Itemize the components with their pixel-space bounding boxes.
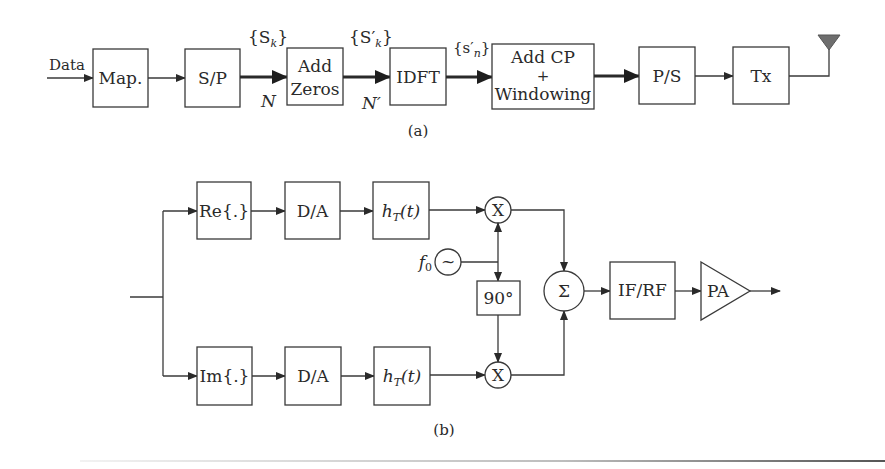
map-label: Map.	[99, 68, 143, 88]
svg-text:hT(t): hT(t)	[383, 366, 421, 389]
add-cp-windowing-block: Add CP + Windowing	[492, 44, 594, 109]
svg-text:IDFT: IDFT	[396, 67, 440, 87]
da-upper-block: D/A	[285, 182, 340, 239]
mixer-upper-to-sum-arrow	[511, 210, 564, 271]
svg-text:Σ: Σ	[558, 281, 570, 301]
svg-text:Zeros: Zeros	[291, 79, 340, 99]
mixer-lower-to-sum-arrow	[511, 311, 564, 375]
data-input-label: Data	[49, 56, 85, 74]
mixer-lower: X	[485, 362, 511, 388]
tx-to-antenna-line	[789, 48, 829, 76]
phase-shift-block: 90°	[477, 281, 520, 315]
ps-block: P/S	[639, 47, 695, 104]
n-label: N	[260, 91, 277, 111]
re-block: Re{.}	[197, 182, 251, 239]
filter-upper-block: hT(t)	[373, 182, 429, 239]
svg-text:X: X	[492, 200, 505, 220]
idft-block: IDFT	[390, 48, 446, 105]
figure-a: Data Map. S/P {Sk} N Add Zeros {S′k} N′ …	[47, 27, 840, 140]
filter-lower-block: hT(t)	[374, 347, 430, 405]
svg-text:D/A: D/A	[297, 201, 329, 221]
svg-text:X: X	[492, 365, 505, 385]
summer: Σ	[544, 271, 584, 311]
n-prime-label: N′	[361, 93, 381, 113]
figure-b: Re{.} D/A hT(t) X Im{.} D/A hT(	[130, 182, 780, 439]
svg-text:Tx: Tx	[751, 66, 772, 86]
map-block: Map.	[93, 49, 148, 107]
sp-block: S/P	[185, 49, 240, 107]
svg-text:Add CP: Add CP	[510, 47, 575, 67]
svg-text:IF/RF: IF/RF	[618, 280, 667, 300]
svg-text:Add: Add	[297, 56, 332, 76]
svg-text:Re{.}: Re{.}	[199, 201, 249, 221]
sk-prime-signal-label: {S′k}	[349, 27, 393, 50]
im-block: Im{.}	[197, 347, 252, 405]
svg-text:P/S: P/S	[653, 66, 682, 86]
mixer-upper: X	[485, 197, 511, 223]
svg-text:hT(t): hT(t)	[382, 201, 420, 224]
svg-text:Im{.}: Im{.}	[200, 366, 250, 386]
caption-b: (b)	[433, 421, 454, 439]
caption-a: (a)	[408, 122, 429, 140]
add-zeros-block: Add Zeros	[287, 48, 343, 105]
svg-text:Windowing: Windowing	[495, 84, 592, 104]
svg-text:D/A: D/A	[297, 366, 329, 386]
antenna-icon	[818, 35, 840, 50]
oscillator: f0 ~	[417, 249, 461, 275]
page-bottom-rule	[80, 460, 885, 462]
svg-text:f0: f0	[417, 252, 432, 274]
svg-text:+: +	[537, 67, 550, 85]
svg-text:PA: PA	[707, 281, 730, 301]
ifrf-block: IF/RF	[610, 262, 675, 319]
pa-amplifier: PA	[701, 262, 750, 320]
sp-label: S/P	[198, 68, 227, 88]
sn-prime-signal-label: {s′n}	[453, 39, 490, 60]
sk-signal-label: {Sk}	[248, 27, 288, 50]
tx-block: Tx	[733, 47, 789, 104]
sine-icon: ~	[441, 251, 455, 271]
da-lower-block: D/A	[285, 347, 341, 405]
svg-text:90°: 90°	[483, 288, 513, 308]
